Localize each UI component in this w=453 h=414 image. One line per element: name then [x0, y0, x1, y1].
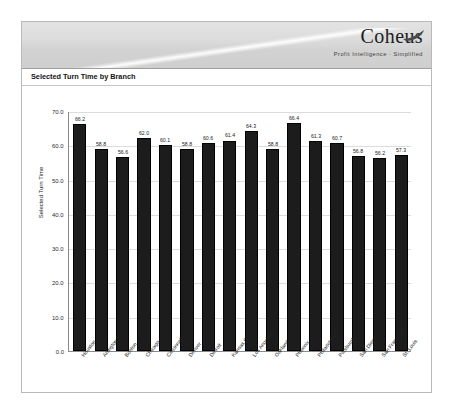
page-title: Selected Turn Time by Branch — [31, 72, 135, 80]
bar[interactable] — [352, 156, 365, 351]
brand-logo: Coheus Profit Intelligence · Simplified — [303, 26, 423, 56]
y-axis-tick-label: 40.0 — [52, 211, 64, 218]
bar[interactable] — [245, 131, 258, 351]
bar-value-label: 57.3 — [386, 146, 417, 153]
y-axis-tick-label: 30.0 — [52, 245, 64, 252]
report-card: Coheus Profit Intelligence · Simplified … — [21, 21, 432, 393]
bar[interactable] — [287, 123, 300, 351]
bar[interactable] — [266, 149, 279, 351]
report-header-band: Coheus Profit Intelligence · Simplified — [22, 22, 431, 69]
bar-value-label: 61.4 — [214, 132, 245, 139]
y-axis-tick-label: 10.0 — [52, 314, 64, 321]
y-axis-tick-label: 20.0 — [52, 280, 64, 287]
bar[interactable] — [137, 138, 150, 351]
bar-value-label: 66.2 — [64, 116, 95, 123]
feather-swoosh-icon — [403, 30, 425, 42]
bar-value-label: 58.8 — [171, 141, 202, 148]
y-axis-tick-label: 50.0 — [52, 177, 64, 184]
bar-value-label: 58.8 — [257, 141, 288, 148]
bar[interactable] — [373, 158, 386, 351]
brand-tagline: Profit Intelligence · Simplified — [237, 51, 423, 57]
bar[interactable] — [395, 155, 408, 351]
y-axis-tick-label: 0.0 — [56, 348, 64, 355]
y-axis-tick-labels: 70.060.050.040.030.020.010.00.0 — [30, 112, 64, 351]
report-page: Coheus Profit Intelligence · Simplified … — [0, 0, 453, 414]
bar[interactable] — [223, 141, 236, 352]
bar-value-label: 62.0 — [128, 130, 159, 137]
bar-value-label: 66.4 — [278, 115, 309, 122]
gridline — [69, 112, 411, 113]
bar[interactable] — [73, 124, 86, 351]
bar-value-label: 56.6 — [107, 148, 138, 155]
bar-value-label: 64.3 — [236, 122, 267, 129]
bar[interactable] — [180, 149, 193, 351]
bar-value-label: 58.8 — [86, 141, 117, 148]
y-axis-tick-label: 60.0 — [52, 142, 64, 149]
bar-value-label: 60.7 — [321, 134, 352, 141]
report-title-bar: Selected Turn Time by Branch — [22, 68, 431, 86]
bar[interactable] — [159, 145, 172, 351]
bar[interactable] — [95, 149, 108, 351]
bar[interactable] — [330, 143, 343, 351]
bar[interactable] — [309, 141, 322, 351]
bar[interactable] — [116, 157, 129, 351]
bar-chart: Selected Turn Time 70.060.050.040.030.02… — [22, 86, 433, 393]
x-axis-tick-labels: HoustonArlingtonBostonChicagoCincinnatiD… — [68, 354, 410, 394]
y-axis-tick-label: 70.0 — [52, 108, 64, 115]
bar[interactable] — [202, 143, 215, 351]
plot-area: 66.258.856.662.060.158.860.661.464.358.8… — [68, 112, 411, 352]
